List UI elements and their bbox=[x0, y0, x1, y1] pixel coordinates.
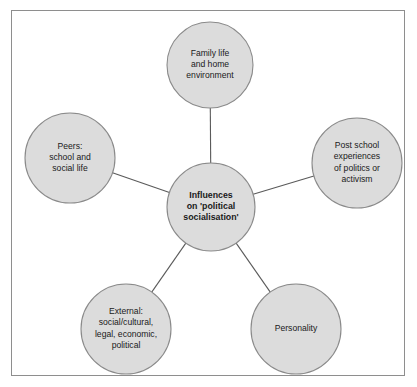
connector-center-external bbox=[152, 243, 186, 292]
personality-node-label: Personality bbox=[275, 323, 318, 333]
peers-node[interactable]: Peers:school andsocial life bbox=[25, 113, 115, 203]
external-node[interactable]: External:social/cultural,legal, economic… bbox=[81, 284, 171, 374]
diagram-root: Family lifeand homeenvironmentPost schoo… bbox=[0, 0, 417, 387]
diagram-canvas: Family lifeand homeenvironmentPost schoo… bbox=[0, 0, 417, 387]
post-school-node[interactable]: Post schoolexperiencesof politics oracti… bbox=[312, 118, 402, 208]
connector-center-personality bbox=[236, 243, 270, 292]
center-node-label: Influenceson 'politicalsocialisation' bbox=[183, 190, 238, 222]
family-life-node[interactable]: Family lifeand homeenvironment bbox=[167, 22, 253, 108]
nodes-layer: Family lifeand homeenvironmentPost schoo… bbox=[25, 22, 402, 374]
center-node[interactable]: Influenceson 'politicalsocialisation' bbox=[167, 163, 255, 251]
family-life-node-label: Family lifeand homeenvironment bbox=[186, 48, 234, 80]
connector-center-peers bbox=[113, 173, 170, 193]
personality-node[interactable]: Personality bbox=[251, 284, 341, 374]
connector-center-post-school bbox=[253, 176, 314, 194]
